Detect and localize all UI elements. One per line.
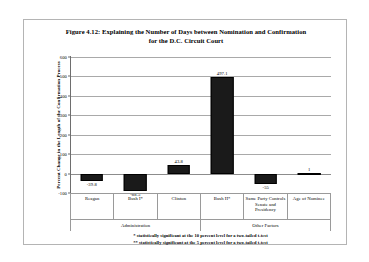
y-tick-label: 100 [60,152,67,157]
bar[interactable] [124,174,147,191]
plot-area: -1000100200300400500600 -39.8-88.543.849… [70,57,331,193]
x-axis-category-label: Bush II* [201,194,244,219]
figure-title-line-1: Figure 4.12: Explaining the Number of Da… [40,27,332,36]
x-axis-category-label: Clinton [158,194,201,219]
bar-value-label: -55 [263,185,269,190]
y-tick-label: 500 [60,74,67,79]
bar[interactable] [254,174,277,185]
x-axis-category-label: Reagan [70,194,114,219]
y-tick-label: 300 [60,113,67,118]
bar[interactable] [298,173,321,175]
bar[interactable] [80,174,103,182]
x-axis-category-label: Bush I* [114,194,157,219]
figure-container: Figure 4.12: Explaining the Number of Da… [23,19,347,245]
x-axis-group-row: Administration Other Factors [70,220,331,231]
x-axis-category-row: ReaganBush I*ClintonBush II*Same Party C… [70,193,331,220]
y-tick-label: 600 [60,55,67,60]
bar-value-label: 1 [308,167,310,172]
y-tick-label: 0 [65,171,67,176]
group-label-administration: Administration [70,220,201,231]
bar-slot: 497.1 [201,57,245,193]
bar-value-label: 497.1 [217,71,228,76]
x-axis-category-label: Age of Nominee [288,194,331,219]
bar-slot: -88.5 [114,57,158,193]
group-label-other-factors: Other Factors [201,220,331,231]
bar-slot: -55 [244,57,288,193]
bar-slot: 1 [288,57,332,193]
figure-title: Figure 4.12: Explaining the Number of Da… [40,27,332,45]
bar-value-label: -39.8 [87,182,97,187]
x-axis-category-label: Same Party Controls Senate and Presidenc… [244,194,287,219]
bar[interactable] [211,77,234,174]
bar-slot: -39.8 [70,57,114,193]
y-tick-label: -100 [58,191,67,196]
y-tick-label: 400 [60,93,67,98]
figure-title-line-2: for the D.C. Circuit Court [40,36,332,45]
y-tick-label: 200 [60,132,67,137]
bar[interactable] [167,165,190,174]
figure-footnotes: * statistically significant at the 10 pe… [70,233,331,246]
bar-slot: 43.8 [157,57,201,193]
bar-value-label: 43.8 [175,159,183,164]
footnote-two-star: ** statistically significant at the 5 pe… [70,240,331,247]
